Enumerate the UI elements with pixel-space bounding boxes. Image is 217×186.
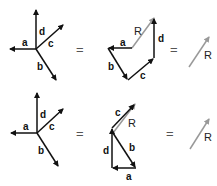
row-1-polygon: a R d b c [108, 18, 164, 81]
label-R: R [204, 131, 212, 143]
label-d: d [103, 145, 109, 156]
label-a: a [126, 171, 132, 182]
label-c: c [140, 70, 146, 81]
label-R: R [134, 25, 142, 37]
row-2-polygon: c R d b a [103, 104, 136, 182]
label-a: a [23, 121, 29, 132]
label-b: b [108, 61, 114, 72]
label-b: b [38, 145, 44, 156]
row-1-resultant: R [189, 37, 212, 67]
label-R: R [128, 117, 136, 129]
vector-diagram: a d c b = a R d b c = R a d c b = [0, 0, 217, 186]
label-c: c [48, 38, 54, 49]
row-1-concurrent-vectors: a d c b [10, 10, 63, 80]
row-2-resultant: R [190, 119, 212, 149]
equals-sign: = [76, 42, 84, 57]
label-c: c [49, 121, 55, 132]
label-d: d [40, 109, 46, 120]
label-a: a [120, 37, 126, 48]
label-b: b [129, 142, 135, 153]
equals-sign: = [166, 126, 174, 141]
label-d: d [158, 33, 164, 44]
label-b: b [37, 61, 43, 72]
label-a: a [22, 37, 28, 48]
label-d: d [39, 26, 45, 37]
label-R: R [204, 49, 212, 61]
equals-sign: = [170, 42, 178, 57]
row-2-concurrent-vectors: a d c b [11, 93, 63, 166]
label-c: c [115, 107, 121, 118]
equals-sign: = [76, 126, 84, 141]
